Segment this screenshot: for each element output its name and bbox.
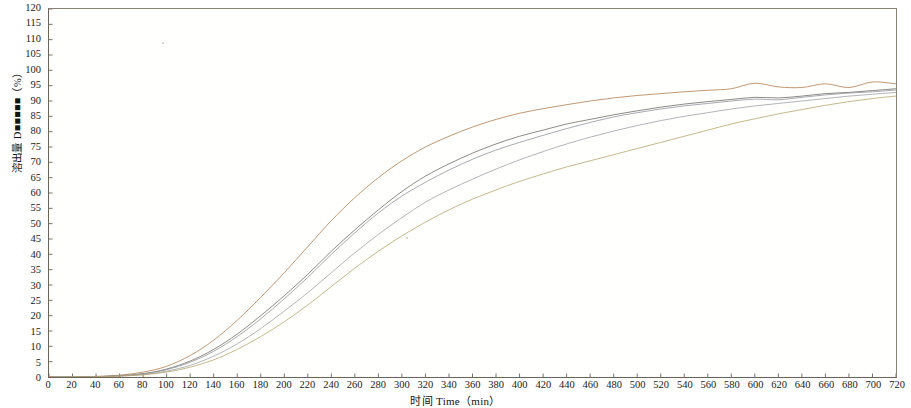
y-tick-label: 105 [1, 49, 41, 59]
series-line [49, 89, 896, 377]
x-tick-label: 360 [465, 379, 481, 391]
x-tick-label: 720 [889, 379, 905, 391]
x-tick-label: 700 [866, 379, 882, 391]
y-tick-label: 75 [1, 142, 41, 152]
series-line [49, 96, 896, 377]
x-tick-label: 80 [137, 379, 148, 391]
x-tick-label: 20 [66, 379, 77, 391]
y-tick-label: 55 [1, 203, 41, 213]
series-line [49, 92, 896, 377]
y-tick-label: 70 [1, 157, 41, 167]
y-tick-label: 115 [1, 18, 41, 28]
y-tick-label: 120 [1, 3, 41, 13]
x-tick-label: 120 [182, 379, 198, 391]
x-tick-label: 440 [559, 379, 575, 391]
x-tick-label: 340 [441, 379, 457, 391]
y-tick-label: 60 [1, 188, 41, 198]
x-tick-label: 0 [45, 379, 50, 391]
y-tick-label: 5 [1, 358, 41, 368]
series-line [49, 82, 896, 377]
x-tick-label: 540 [677, 379, 693, 391]
x-tick-label: 280 [370, 379, 386, 391]
x-tick-label: 40 [90, 379, 101, 391]
x-tick-label: 180 [252, 379, 268, 391]
y-tick-label: 65 [1, 173, 41, 183]
x-tick-label: 240 [323, 379, 339, 391]
x-tick-label: 580 [724, 379, 740, 391]
x-axis-title: 时间 Time（min） [0, 392, 911, 408]
y-tick-label: 100 [1, 65, 41, 75]
x-tick-label: 640 [795, 379, 811, 391]
y-tick-label: 110 [1, 34, 41, 44]
y-tick-label: 45 [1, 234, 41, 244]
x-tick-label: 380 [488, 379, 504, 391]
x-tick-label: 620 [771, 379, 787, 391]
x-tick-label: 560 [700, 379, 716, 391]
y-tick-label: 30 [1, 281, 41, 291]
x-tick-label: 140 [205, 379, 221, 391]
x-tick-label: 680 [842, 379, 858, 391]
y-tick-label: 35 [1, 265, 41, 275]
x-tick-label: 200 [276, 379, 292, 391]
y-tick-label: 85 [1, 111, 41, 121]
series-line [49, 90, 896, 377]
dissolution-profile-chart: 溶出量 D■■■■■（%） 05101520253035404550556065… [0, 0, 911, 408]
x-tick-label: 320 [417, 379, 433, 391]
x-tick-label: 300 [394, 379, 410, 391]
series-canvas [49, 9, 896, 377]
y-tick-label: 20 [1, 311, 41, 321]
x-tick-label: 460 [583, 379, 599, 391]
x-tick-label: 660 [818, 379, 834, 391]
x-tick-label: 420 [535, 379, 551, 391]
x-tick-label: 600 [748, 379, 764, 391]
x-tick-label: 480 [606, 379, 622, 391]
plot-area [48, 8, 897, 378]
x-tick-label: 500 [630, 379, 646, 391]
y-tick-label: 80 [1, 126, 41, 136]
y-tick-label: 40 [1, 250, 41, 260]
y-tick-label: 25 [1, 296, 41, 306]
y-tick-label: 95 [1, 80, 41, 90]
x-tick-label: 400 [512, 379, 528, 391]
x-tick-label: 260 [347, 379, 363, 391]
x-tick-label: 220 [300, 379, 316, 391]
y-axis-tick-labels: 0510152025303540455055606570758085909510… [0, 0, 44, 408]
y-tick-label: 90 [1, 96, 41, 106]
y-tick-label: 50 [1, 219, 41, 229]
y-tick-label: 10 [1, 342, 41, 352]
x-tick-label: 100 [158, 379, 174, 391]
y-tick-label: 15 [1, 327, 41, 337]
x-tick-label: 60 [114, 379, 125, 391]
x-tick-label: 520 [653, 379, 669, 391]
x-tick-label: 160 [229, 379, 245, 391]
